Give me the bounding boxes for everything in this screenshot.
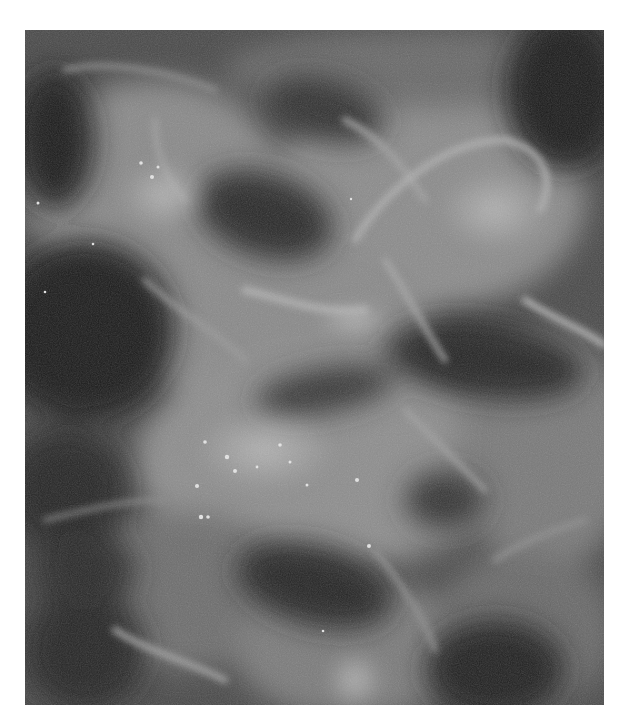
fluorescence-micrograph: [25, 30, 604, 705]
page: [0, 0, 625, 726]
grain-texture: [25, 30, 604, 705]
micrograph-image: [25, 30, 604, 705]
